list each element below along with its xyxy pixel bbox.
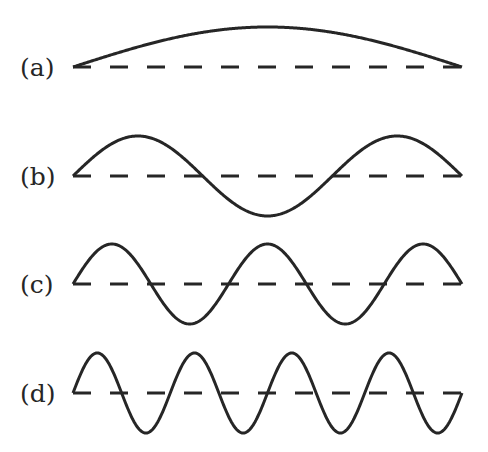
wave-figure [0,0,488,452]
panel-label-c: (c) [20,272,54,297]
wave-d [73,353,462,433]
wave-a [73,27,462,67]
panel-label-d: (d) [20,381,56,406]
panel-label-b: (b) [20,164,56,189]
panel-label-a: (a) [20,55,54,80]
